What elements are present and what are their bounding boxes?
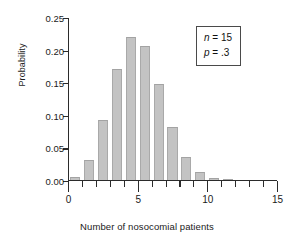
x-tick-minor: [235, 181, 236, 187]
x-axis-label: Number of nosocomial patients: [0, 221, 294, 232]
bar: [98, 120, 108, 180]
parameter-p-value: = .3: [210, 47, 230, 58]
x-axis-line: [68, 180, 277, 181]
x-tick-minor: [221, 181, 222, 187]
x-tick-major: 5: [138, 181, 139, 192]
x-tick-minor: [152, 181, 153, 187]
bar: [195, 172, 205, 180]
x-tick-minor: [96, 181, 97, 187]
y-tick-label: 0.20: [46, 45, 65, 56]
bar: [126, 37, 136, 180]
x-tick-major: 15: [277, 181, 278, 192]
y-tick-label: 0.25: [46, 13, 65, 24]
binomial-distribution-chart: Probability 0.000.050.100.150.200.25 051…: [0, 0, 294, 242]
x-tick-label: 15: [272, 194, 283, 205]
x-tick-minor: [193, 181, 194, 187]
bar: [70, 177, 80, 180]
bar: [223, 179, 233, 180]
y-tick-label: 0.15: [46, 78, 65, 89]
parameter-n-value: = 15: [210, 32, 233, 43]
x-tick-label: 0: [66, 194, 72, 205]
y-tick-label: 0.10: [46, 110, 65, 121]
x-tick-label: 5: [135, 194, 141, 205]
bar: [112, 69, 122, 180]
x-tick-minor: [124, 181, 125, 187]
bar: [209, 178, 219, 180]
bar: [181, 157, 191, 180]
x-tick-minor: [110, 181, 111, 187]
parameter-p: p = .3: [204, 46, 232, 61]
y-tick-label: 0.05: [46, 143, 65, 154]
x-tick-major: 0: [68, 181, 69, 192]
parameter-annotation-box: n = 15 p = .3: [196, 26, 241, 66]
bar: [167, 127, 177, 180]
x-tick-minor: [179, 181, 180, 187]
bar: [140, 46, 150, 180]
x-tick-label: 10: [202, 194, 213, 205]
y-axis-label: Probability: [17, 10, 27, 120]
bar: [84, 160, 94, 180]
x-tick-minor: [263, 181, 264, 187]
x-tick-major: 10: [207, 181, 208, 192]
parameter-n: n = 15: [204, 31, 232, 46]
x-tick-minor: [166, 181, 167, 187]
bar: [154, 84, 164, 180]
x-tick-minor: [82, 181, 83, 187]
y-tick-label: 0.00: [46, 176, 65, 187]
plot-area: 0.000.050.100.150.200.25 051015: [68, 18, 277, 181]
y-axis-line: [68, 18, 69, 181]
x-tick-minor: [249, 181, 250, 187]
